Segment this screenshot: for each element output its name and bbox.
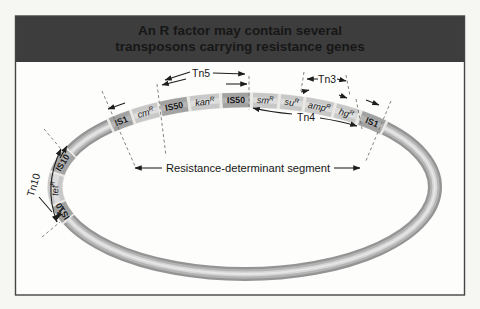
r-factor-figure: An R factor may contain several transpos… [0,0,480,309]
figure-title-line1: An R factor may contain several [138,23,342,38]
segment-label-is50-right: IS50 [227,95,245,105]
resistance-determinant-segment-label: Resistance-determinant segment [166,162,331,174]
figure-title-line2: transposons carrying resistance genes [115,39,364,54]
tn3-label: Tn3 [318,74,336,85]
tn4-label: Tn4 [297,112,315,123]
tn5-label: Tn5 [192,68,210,79]
figure-page: An R factor may contain several transpos… [0,0,480,309]
